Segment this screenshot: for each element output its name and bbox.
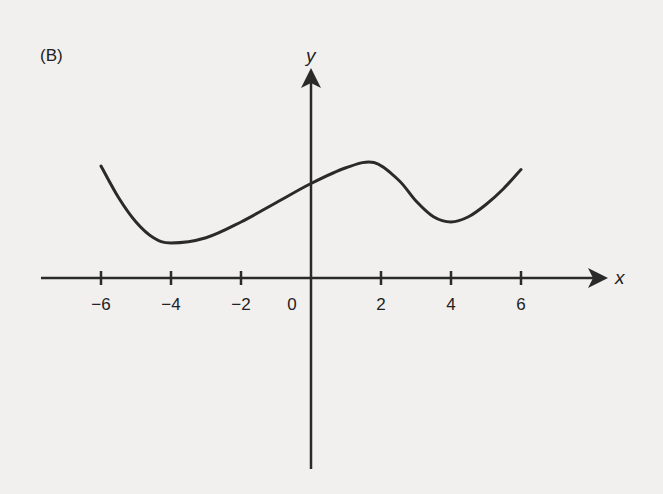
x-tick-label: 6 (516, 295, 525, 314)
x-tick-label: −4 (161, 295, 180, 314)
x-tick-label: 2 (376, 295, 385, 314)
x-tick-label: 4 (446, 295, 455, 314)
x-axis-label: x (614, 267, 626, 288)
x-tick-label: 0 (287, 295, 296, 314)
x-tick-label: −2 (231, 295, 250, 314)
y-axis-label: y (304, 45, 317, 66)
axes (41, 68, 608, 469)
x-tick-label: −6 (91, 295, 110, 314)
chart: −6−4−20246 x y (0, 0, 663, 494)
